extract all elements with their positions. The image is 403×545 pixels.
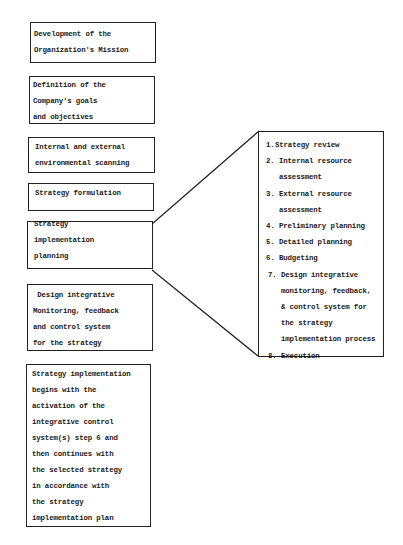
box-text-line: planning — [34, 248, 152, 264]
connector-top — [152, 131, 259, 224]
step-item-5: 5. Detailed planning — [266, 234, 383, 250]
box-text-line: begins with the — [32, 382, 150, 398]
step-text: assessment — [279, 202, 322, 218]
step-text: monitoring, feedback, — [281, 283, 371, 299]
detail-box-implementation-steps: 1. Strategy review 2. Internal resource … — [258, 131, 384, 357]
box-text-line: and objectives — [33, 109, 154, 125]
box-strategy-implementation-execution: Strategy implementation begins with the … — [26, 364, 151, 527]
step-number: 3. — [266, 186, 279, 202]
step-number: 7. — [266, 267, 281, 283]
step-item-3: 3. External resource — [266, 186, 383, 202]
box-strategy-implementation-planning: Strategy implementation planning — [27, 221, 153, 269]
box-text-line: in accordance with — [32, 478, 150, 494]
step-item-2: 2. Internal resource — [266, 153, 383, 169]
box-company-goals: Definition of the Company's goals and ob… — [29, 76, 155, 124]
box-text-line: Monitoring, feedback — [33, 303, 152, 319]
box-text-line: environmental scanning — [35, 155, 154, 171]
step-item-6: 6. Budgeting — [266, 250, 383, 266]
box-text-line: activation of the — [32, 398, 150, 414]
box-text-line: then continues with — [32, 446, 150, 462]
step-item-1: 1. Strategy review — [266, 137, 383, 153]
box-environmental-scanning: Internal and external environmental scan… — [28, 137, 155, 173]
box-text-line: Design integrative — [33, 287, 152, 303]
step-text: implementation process — [281, 331, 375, 347]
step-text: Design integrative — [281, 267, 358, 283]
step-item-8: 8. Execution — [266, 348, 383, 364]
box-organization-mission: Development of the Organization's Missio… — [30, 22, 156, 63]
box-text-line: Definition of the — [33, 77, 154, 93]
step-text: Detailed planning — [279, 234, 352, 250]
step-text-continued: & control system for — [266, 299, 383, 315]
step-number: 6. — [266, 250, 279, 266]
step-text-continued: the strategy — [266, 315, 383, 331]
box-text-line: Strategy implementation — [32, 366, 150, 382]
step-text-continued: implementation process — [266, 331, 383, 347]
step-number: 8. — [266, 348, 281, 364]
step-number: 5. — [266, 234, 279, 250]
box-text-line: integrative control — [32, 414, 150, 430]
box-text-line: the selected strategy — [32, 462, 150, 478]
step-text-continued: monitoring, feedback, — [266, 283, 383, 299]
box-text-line: Company's goals — [33, 93, 154, 109]
box-text-line: and control system — [33, 319, 152, 335]
step-text: Preliminary planning — [279, 218, 365, 234]
step-text: assessment — [279, 169, 322, 185]
step-item-4: 4. Preliminary planning — [266, 218, 383, 234]
box-monitoring-feedback-control: Design integrative Monitoring, feedback … — [27, 284, 153, 351]
box-text-line: Development of the — [34, 26, 155, 42]
box-text-line: the strategy — [32, 494, 150, 510]
step-text-continued: assessment — [266, 169, 383, 185]
step-text-continued: assessment — [266, 202, 383, 218]
step-text: External resource — [279, 186, 352, 202]
step-text: Budgeting — [279, 250, 318, 266]
box-text-line: for the strategy — [33, 335, 152, 351]
step-number: 2. — [266, 153, 279, 169]
step-text: the strategy — [281, 315, 332, 331]
step-item-7: 7. Design integrative — [266, 267, 383, 283]
step-text: & control system for — [281, 299, 367, 315]
step-text: Strategy review — [275, 137, 339, 153]
box-text-line: system(s) step 6 and — [32, 430, 150, 446]
box-text-line: Strategy formulation — [35, 185, 153, 201]
step-number: 1. — [266, 137, 275, 153]
step-text: Execution — [281, 348, 320, 364]
box-text-line: implementation plan — [32, 510, 150, 526]
step-text: Internal resource — [279, 153, 352, 169]
step-number: 4. — [266, 218, 279, 234]
box-text-line: implementation — [34, 232, 152, 248]
box-strategy-formulation: Strategy formulation — [28, 183, 154, 211]
box-text-line: Internal and external — [35, 139, 154, 155]
box-text-line: Organization's Mission — [34, 42, 155, 58]
connector-bottom — [152, 270, 258, 356]
box-text-line: Strategy — [34, 216, 152, 232]
